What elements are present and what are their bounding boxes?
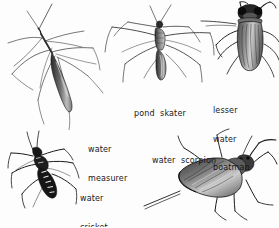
label-water-cricket-line2: cricket [80,223,108,228]
water-measurer-abdomen [51,53,72,112]
label-lesser-water-boatman-line1: lesser [213,106,250,116]
label-pond-skater-line1: pond skater [134,109,186,119]
water-measurer-tail [69,111,70,130]
label-water-cricket: water cricket [80,175,108,227]
label-lesser-water-boatman: lesser water boatman [213,87,250,192]
label-water-measurer-line1: water [88,145,127,155]
label-lesser-water-boatman-line2: water [213,135,250,145]
label-water-cricket-line1: water [80,194,108,204]
label-lesser-water-boatman-line3: boatman [213,163,250,173]
lesser-water-boatman-body [237,5,263,71]
label-pond-skater: pond skater [134,90,186,138]
water-cricket-body [33,147,57,198]
illustration-plate: water measurer pond skater lesser water … [0,0,279,227]
pond-skater-body [155,28,166,80]
label-water-scorpion: water scorpion [152,137,216,185]
label-water-scorpion-line1: water scorpion [152,156,216,166]
